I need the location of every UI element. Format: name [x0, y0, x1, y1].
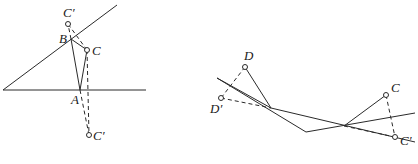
label-D-prime: D′ — [209, 101, 222, 116]
label-B: B — [59, 31, 67, 46]
segment-AC — [80, 50, 87, 90]
point-D — [243, 65, 248, 70]
path-line-1 — [217, 78, 415, 132]
segment-D-prime-to-P1 — [221, 98, 271, 108]
segment-A-to-C-prime-bottom — [80, 90, 89, 135]
point-C-prime-right — [393, 135, 398, 140]
label-C-prime-bottom: C′ — [93, 128, 105, 143]
figure-left: C′ B C A C′ — [3, 5, 146, 143]
geometry-figures: C′ B C A C′ D D′ C C′ — [0, 0, 418, 164]
label-C: C — [92, 43, 101, 58]
label-C-prime-right: C′ — [400, 133, 412, 148]
label-C-right: C — [391, 80, 400, 95]
label-D: D — [243, 48, 254, 63]
figure-right: D D′ C C′ — [209, 48, 415, 148]
crossing-line — [217, 78, 271, 108]
point-C-prime-top — [66, 22, 71, 27]
point-C — [85, 48, 90, 53]
point-D-prime — [219, 96, 224, 101]
segment-AB — [71, 39, 80, 90]
point-C-prime-bottom — [87, 133, 92, 138]
reflection-C-to-C-prime — [386, 95, 395, 137]
label-A: A — [70, 92, 79, 107]
segment-D-P1 — [245, 67, 271, 108]
reflection-C-to-C-prime-bottom — [87, 50, 89, 135]
point-C-right — [384, 93, 389, 98]
label-C-prime-top: C′ — [63, 5, 75, 20]
